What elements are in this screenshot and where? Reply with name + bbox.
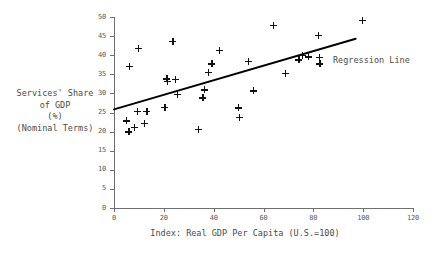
data-point-marker (305, 53, 312, 60)
data-point-marker (135, 45, 142, 52)
data-point-marker (164, 78, 171, 85)
y-tick-label: 10 (86, 166, 106, 173)
x-tick-mark (413, 208, 414, 212)
legend-regression-line-label: Regression Line (333, 55, 410, 65)
data-point-marker (169, 38, 176, 45)
x-tick-label: 40 (204, 215, 224, 222)
data-point-marker (201, 86, 208, 93)
data-point-marker (126, 63, 133, 70)
data-point-marker (205, 69, 212, 76)
x-tick-mark (363, 208, 364, 212)
data-point-marker (141, 120, 148, 127)
y-tick-label: 15 (86, 147, 106, 154)
data-point-marker (174, 91, 181, 98)
data-point-marker (250, 87, 257, 94)
data-point-marker (235, 104, 242, 111)
data-point-marker (270, 22, 277, 29)
data-point-marker (236, 114, 243, 121)
data-point-marker (208, 60, 215, 67)
y-tick-label: 40 (86, 52, 106, 59)
y-tick-label: 35 (86, 71, 106, 78)
data-point-marker (282, 70, 289, 77)
x-tick-label: 120 (403, 215, 423, 222)
data-point-marker (134, 108, 141, 115)
y-tick-label: 0 (86, 205, 106, 212)
data-point-marker (315, 32, 322, 39)
x-tick-mark (264, 208, 265, 212)
data-point-marker (172, 76, 179, 83)
x-axis-title: Index: Real GDP Per Capita (U.S.=100) (100, 228, 390, 238)
x-tick-label: 20 (154, 215, 174, 222)
data-point-marker (143, 108, 150, 115)
regression-line (114, 17, 413, 208)
data-point-marker (245, 58, 252, 65)
x-tick-mark (214, 208, 215, 212)
y-tick-label: 45 (86, 33, 106, 40)
x-tick-mark (313, 208, 314, 212)
data-point-marker (195, 126, 202, 133)
x-tick-label: 0 (104, 215, 124, 222)
x-tick-label: 60 (254, 215, 274, 222)
x-tick-mark (114, 208, 115, 212)
data-point-marker (216, 47, 223, 54)
y-tick-label: 50 (86, 14, 106, 21)
y-axis-title: Services' Share of GDP (%) (Nominal Term… (2, 88, 108, 134)
data-point-marker (131, 124, 138, 131)
x-tick-label: 100 (353, 215, 373, 222)
data-point-marker (123, 117, 130, 124)
data-point-marker (359, 17, 366, 24)
data-point-marker (199, 94, 206, 101)
y-tick-label: 5 (86, 185, 106, 192)
x-tick-label: 80 (303, 215, 323, 222)
plot-area: 05101520253035404550 020406080100120 (114, 17, 413, 208)
data-point-marker (316, 60, 323, 67)
scatter-chart: 05101520253035404550 020406080100120 Ser… (0, 0, 435, 255)
data-point-marker (161, 104, 168, 111)
x-tick-mark (164, 208, 165, 212)
